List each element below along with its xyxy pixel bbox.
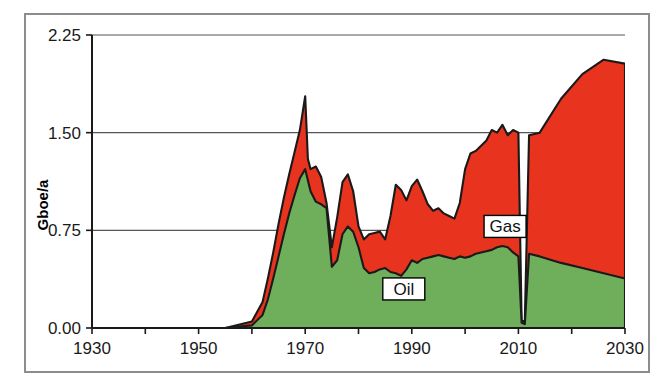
annotation-label: Oil (393, 280, 414, 299)
x-tick-label: 2030 (606, 339, 644, 358)
plot-wrapper: 193019501970199020102030 0.000.751.502.2… (0, 0, 672, 391)
y-tick-label: 1.50 (48, 124, 81, 143)
x-tick-label: 2010 (499, 339, 537, 358)
x-tick-label: 1950 (180, 339, 218, 358)
y-tick-label: 2.25 (48, 26, 81, 45)
y-tick-label: 0.75 (48, 221, 81, 240)
y-tick-label: 0.00 (48, 319, 81, 338)
x-axis-tick-labels: 193019501970199020102030 (73, 339, 644, 358)
area-chart: 193019501970199020102030 0.000.751.502.2… (0, 0, 672, 391)
x-tick-label: 1970 (286, 339, 324, 358)
annotation-label: Gas (489, 217, 520, 236)
y-axis-title: Gboe/a (34, 179, 51, 231)
x-tick-label: 1930 (73, 339, 111, 358)
y-axis-tick-labels: 0.000.751.502.25 (48, 26, 81, 338)
chart-screenshot: 193019501970199020102030 0.000.751.502.2… (0, 0, 672, 391)
x-tick-label: 1990 (393, 339, 431, 358)
